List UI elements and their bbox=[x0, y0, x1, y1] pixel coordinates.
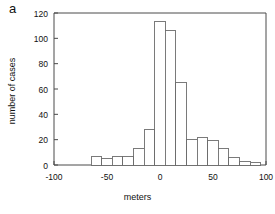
histogram-bar bbox=[187, 140, 198, 165]
plot-area bbox=[0, 0, 275, 214]
histogram-bar bbox=[102, 159, 113, 165]
histogram-bar bbox=[208, 141, 219, 165]
histogram-bar bbox=[134, 149, 145, 165]
histogram-bar bbox=[155, 22, 166, 165]
histogram-bar bbox=[176, 83, 187, 165]
histogram-bar bbox=[240, 161, 251, 165]
histogram-figure: a 120 100 80 60 40 20 0 -100 -50 0 50 10… bbox=[0, 0, 275, 214]
histogram-bar bbox=[165, 31, 176, 165]
histogram-bar bbox=[123, 156, 134, 165]
histogram-bar bbox=[91, 156, 102, 165]
histogram-bar bbox=[229, 157, 240, 165]
histogram-bar bbox=[218, 149, 229, 165]
histogram-bar bbox=[250, 162, 261, 165]
histogram-bar bbox=[144, 130, 155, 165]
histogram-bar bbox=[197, 137, 208, 165]
histogram-bar bbox=[112, 156, 123, 165]
